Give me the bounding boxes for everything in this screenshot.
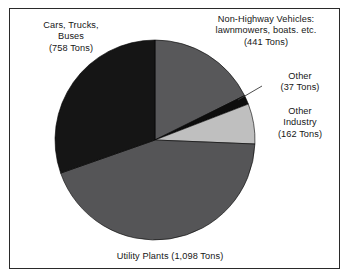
- slice-label-other: Other (37 Tons): [262, 71, 338, 94]
- pie-slices-group: [55, 40, 255, 240]
- slice-label-cars-trucks-buses: Cars, Trucks, Buses (758 Tons): [12, 20, 130, 54]
- slice-label-non-highway-vehicles: Non-Highway Vehicles: lawnmowers, boats.…: [188, 14, 344, 48]
- pie-chart-figure: Cars, Trucks, Buses (758 Tons) Non-Highw…: [0, 0, 350, 279]
- slice-label-other-industry: Other Industry (162 Tons): [262, 106, 338, 140]
- slice-label-utility-plants: Utility Plants (1,098 Tons): [60, 251, 280, 262]
